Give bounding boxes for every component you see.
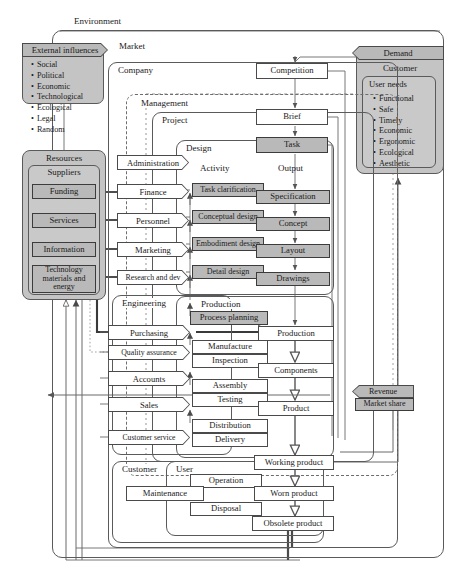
production-output-production[interactable]: Production (258, 326, 334, 341)
flow-node-task[interactable]: Task (256, 137, 328, 153)
diagram-canvas: Environment Market External influences S… (0, 0, 458, 575)
management-function-administration[interactable]: Administration (117, 155, 189, 170)
design-activity-conceptual-design[interactable]: Conceptual design (192, 210, 264, 224)
production-activity-assembly[interactable]: Assembly (192, 379, 268, 393)
customer-activity-maintenance[interactable]: Maintenance (126, 486, 204, 501)
production-activity-testing[interactable]: Testing (192, 393, 268, 407)
management-function-label: Personnel (118, 214, 188, 227)
engineering-function-label: Customer service (109, 431, 189, 444)
project-label: Project (160, 115, 190, 125)
management-function-label: Research and dev (118, 271, 188, 284)
production-activity-distribution[interactable]: Distribution (192, 419, 268, 433)
engineering-function-customer-service[interactable]: Customer service (108, 430, 190, 445)
revenue-header: Revenue (352, 385, 414, 398)
production-activity-process-planning[interactable]: Process planning (190, 311, 268, 325)
list-item: Legal (31, 114, 104, 125)
market-share-node[interactable]: Market share (355, 398, 414, 411)
engineering-function-label: Purchasing (109, 326, 189, 339)
list-item: Economic (31, 82, 104, 93)
list-item: Social (31, 60, 104, 71)
external-influences-header-label: External influences (23, 44, 107, 56)
production-label: Production (199, 299, 243, 309)
production-output-product[interactable]: Product (258, 401, 334, 416)
demand-header: Demand (352, 46, 444, 60)
engineering-function-label: Accounts (109, 372, 189, 385)
revenue-label: Revenue (353, 386, 413, 397)
customer-activity-disposal[interactable]: Disposal (190, 502, 262, 516)
resource-technology-line: Technology materials and energy (33, 266, 95, 293)
management-function-label: Administration (118, 156, 188, 169)
list-item: Random (31, 125, 104, 136)
design-output-drawings[interactable]: Drawings (256, 272, 330, 286)
market-label: Market (119, 41, 145, 51)
design-label: Design (184, 143, 214, 153)
customer-label: Customer (120, 464, 159, 474)
customer-output-obsolete-product[interactable]: Obsolete product (252, 516, 334, 531)
activity-column-header: Activity (200, 163, 230, 173)
flow-node-competition[interactable]: Competition (256, 63, 328, 79)
design-activity-embodiment-design[interactable]: Embodiment design (192, 237, 264, 251)
management-label: Management (139, 98, 190, 108)
design-output-layout[interactable]: Layout (256, 244, 330, 258)
resources-header: Resources (22, 153, 106, 163)
customer-output-working-product[interactable]: Working product (254, 455, 334, 470)
company-label: Company (116, 65, 155, 75)
resource-technology-materials-energy[interactable]: Technology materials and energy (32, 265, 96, 293)
management-function-research-and-dev[interactable]: Research and dev (117, 270, 189, 285)
list-item: Technological (31, 92, 104, 103)
external-influences-list: Social Political Economic Technological … (24, 57, 104, 138)
production-output-components[interactable]: Components (258, 363, 334, 378)
resource-funding[interactable]: Funding (32, 184, 96, 199)
design-activity-task-clarification[interactable]: Task clarification (192, 183, 264, 197)
management-function-label: Marketing (118, 243, 188, 256)
suppliers-header: Suppliers (28, 167, 100, 177)
production-activity-inspection[interactable]: Inspection (192, 354, 268, 368)
management-function-marketing[interactable]: Marketing (117, 242, 189, 257)
production-activity-delivery[interactable]: Delivery (192, 433, 268, 447)
production-activity-manufacture[interactable]: Manufacture (192, 340, 268, 354)
resource-services[interactable]: Services (32, 213, 96, 228)
engineering-function-label: Quality assurance (109, 346, 189, 359)
flow-node-brief[interactable]: Brief (256, 109, 328, 125)
design-output-concept[interactable]: Concept (256, 217, 330, 231)
external-influences-header: External influences (22, 43, 108, 57)
environment-label: Environment (74, 16, 121, 26)
engineering-function-sales[interactable]: Sales (108, 397, 190, 412)
demand-header-label: Demand (353, 47, 443, 59)
management-function-label: Finance (118, 185, 188, 198)
engineering-function-label: Sales (109, 398, 189, 411)
management-function-personnel[interactable]: Personnel (117, 213, 189, 228)
user-label: User (174, 464, 195, 474)
engineering-function-purchasing[interactable]: Purchasing (108, 325, 190, 340)
engineering-label: Engineering (120, 298, 168, 308)
output-column-header: Output (278, 163, 303, 173)
design-activity-detail-design[interactable]: Detail design (192, 265, 264, 279)
list-item: Ecological (31, 103, 104, 114)
engineering-function-quality-assurance[interactable]: Quality assurance (108, 345, 190, 360)
list-item: Political (31, 71, 104, 82)
engineering-function-accounts[interactable]: Accounts (108, 371, 190, 386)
customer-output-worn-product[interactable]: Worn product (254, 486, 334, 501)
management-function-finance[interactable]: Finance (117, 184, 189, 199)
resource-information[interactable]: Information (32, 242, 96, 257)
design-output-specification[interactable]: Specification (256, 190, 330, 204)
